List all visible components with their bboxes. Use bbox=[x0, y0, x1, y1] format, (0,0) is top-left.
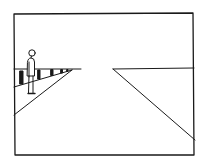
right-horizon-line bbox=[113, 68, 194, 69]
railing-post bbox=[61, 70, 63, 74]
frame-border bbox=[14, 13, 194, 155]
railing-post bbox=[20, 71, 23, 84]
railing-post bbox=[67, 70, 68, 72]
person-head bbox=[29, 50, 35, 56]
right-road-edge bbox=[113, 69, 195, 140]
perspective-drawing bbox=[0, 0, 205, 165]
railing-post bbox=[51, 70, 53, 76]
person-left-leg bbox=[29, 76, 30, 93]
standing-person bbox=[28, 50, 36, 94]
railing-post bbox=[38, 70, 40, 79]
